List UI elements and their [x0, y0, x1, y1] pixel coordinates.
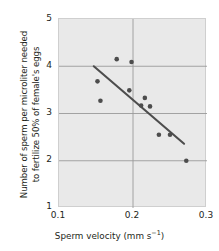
x-axis-title-main: Sperm velocity (mm s: [55, 231, 152, 241]
plot-area: [58, 18, 206, 207]
data-point: [143, 96, 148, 101]
y-tick-label-4: 4: [30, 60, 52, 70]
data-point: [129, 60, 134, 65]
data-point: [98, 98, 103, 103]
data-point: [148, 104, 153, 109]
scatter-chart-figure: Number of sperm per microliter needed to…: [0, 0, 219, 251]
data-point: [95, 79, 100, 84]
y-axis-title-line1: Number of sperm per microliter needed: [19, 5, 31, 225]
data-point: [114, 57, 119, 62]
data-point: [139, 103, 144, 108]
y-tick-label-5: 5: [30, 13, 52, 23]
y-tick-label-3: 3: [30, 107, 52, 117]
data-point: [168, 132, 173, 137]
x-tick-label-0p2: 0.2: [112, 210, 152, 220]
y-tick-label-2: 2: [30, 154, 52, 164]
x-tick-label-0p1: 0.1: [38, 210, 78, 220]
x-tick-label-0p3: 0.3: [186, 210, 219, 220]
data-point: [127, 88, 132, 93]
plot-canvas: [59, 19, 207, 208]
x-axis-title-exponent: −1: [151, 229, 160, 237]
x-axis-title-tail: ): [161, 231, 164, 241]
x-axis-title: Sperm velocity (mm s−1): [0, 229, 219, 241]
data-point: [157, 132, 162, 137]
data-point: [184, 158, 189, 163]
